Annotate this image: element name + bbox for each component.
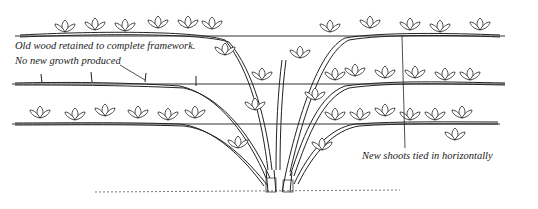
new-shoots-label: New shoots tied in horizontally [362,150,493,162]
old-wood-label-line1: Old wood retained to complete framework. [15,40,195,52]
new-shoots-leader-line [402,36,405,148]
old-wood-leader-line [120,65,145,80]
old-wood-label-line2: No new growth produced [15,55,121,67]
ground-line [95,190,400,192]
plant-training-diagram [0,0,538,209]
left-arm-middle-old-wood [15,82,266,178]
plant-base [266,170,293,192]
left-arm-bottom [15,123,264,186]
illustration: Old wood retained to complete framework.… [0,0,538,209]
